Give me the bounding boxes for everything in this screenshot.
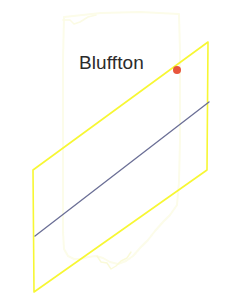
quadrangle-boundary bbox=[33, 42, 208, 292]
quadrangle-boundary-layer bbox=[33, 42, 208, 292]
river-line-layer bbox=[35, 102, 209, 236]
map-canvas bbox=[0, 0, 231, 299]
river-line bbox=[35, 102, 209, 236]
place-label: Bluffton bbox=[79, 53, 144, 72]
locator-map-figure: Bluffton bbox=[0, 0, 231, 299]
place-marker-icon bbox=[173, 66, 181, 74]
